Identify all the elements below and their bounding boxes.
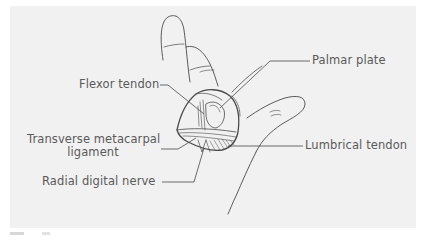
middle-finger-outline — [186, 46, 218, 86]
index-finger-outline — [161, 16, 190, 82]
label-line-2: ligament — [27, 146, 159, 159]
label-palmar-plate: Palmar plate — [312, 54, 386, 67]
figure-caption-mark-2 — [42, 232, 50, 235]
label-transverse-metacarpal-ligament: Transverse metacarpal ligament — [27, 133, 159, 159]
label-radial-digital-nerve: Radial digital nerve — [42, 175, 156, 188]
leader-flexor-tendon — [160, 85, 204, 114]
leader-radial-digital-nerve — [162, 148, 204, 182]
figure-caption-mark — [10, 232, 24, 235]
hand-anatomy-illustration — [0, 0, 426, 240]
label-lumbrical-tendon: Lumbrical tendon — [305, 139, 407, 152]
palm-outline — [228, 152, 256, 214]
label-flexor-tendon: Flexor tendon — [79, 78, 159, 91]
thumb-outline — [247, 96, 305, 152]
